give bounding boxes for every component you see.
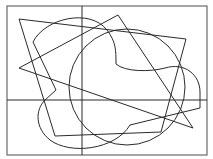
frame-border: [7, 6, 207, 155]
diagram-canvas: [0, 0, 213, 159]
circle-shape: [69, 29, 185, 145]
quadrilateral-shape: [19, 19, 186, 136]
diagram-svg: [0, 0, 213, 159]
